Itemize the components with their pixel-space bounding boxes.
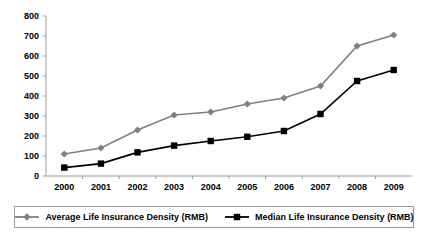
legend-label-average: Average Life Insurance Density (RMB) [45,213,208,222]
data-point-marker [391,67,397,73]
legend-label-median: Median Life Insurance Density (RMB) [255,213,414,222]
x-tick-label: 2008 [347,182,367,192]
series-median [61,67,397,171]
line-chart-svg: 2000200120022003200420052006200720082009… [0,0,431,196]
legend-entry-median: Median Life Insurance Density (RMB) [224,211,414,223]
data-point-marker [390,31,397,38]
data-point-marker [97,144,104,151]
y-axis [43,16,46,176]
data-point-marker [208,138,214,144]
y-tick-label: 300 [24,111,39,121]
x-tick-label: 2006 [274,182,294,192]
data-point-marker [171,142,177,148]
data-point-marker [171,111,178,118]
x-axis-tick-labels: 2000200120022003200420052006200720082009 [54,182,403,192]
chart-legend: Average Life Insurance Density (RMB) Med… [14,206,414,228]
data-point-marker [317,111,323,117]
legend-marker-square-icon [224,211,250,223]
y-tick-label: 500 [24,71,39,81]
x-tick-label: 2005 [237,182,257,192]
series-line [64,35,393,154]
legend-marker-diamond-icon [14,211,40,223]
data-point-marker [244,134,250,140]
x-tick-label: 2007 [310,182,330,192]
data-point-marker [98,160,104,166]
plot-area: 2000200120022003200420052006200720082009… [0,0,431,196]
y-tick-label: 400 [24,91,39,101]
data-point-marker [61,164,67,170]
data-point-marker [134,149,140,155]
y-tick-label-group: 0100200300400500600700800 [24,11,39,181]
x-tick-label: 2002 [127,182,147,192]
legend-entry-average: Average Life Insurance Density (RMB) [14,211,208,223]
series-line [64,70,393,168]
data-point-marker [281,128,287,134]
y-tick-label: 200 [24,131,39,141]
data-point-marker [280,94,287,101]
y-tick-label: 700 [24,31,39,41]
x-tick-label: 2000 [54,182,74,192]
data-point-marker [244,100,251,107]
y-tick-label: 100 [24,151,39,161]
x-tick-label: 2003 [164,182,184,192]
data-point-marker [207,108,214,115]
x-tick-label: 2001 [91,182,111,192]
x-tick-label: 2009 [384,182,404,192]
series-group [61,31,398,170]
data-point-marker [354,78,360,84]
y-tick-label: 0 [34,171,39,181]
y-tick-label: 800 [24,11,39,21]
chart-container: 2000200120022003200420052006200720082009… [0,0,431,240]
data-point-marker [134,126,141,133]
x-axis [46,176,412,179]
y-tick-label: 600 [24,51,39,61]
x-tick-label: 2004 [201,182,221,192]
data-point-marker [61,150,68,157]
